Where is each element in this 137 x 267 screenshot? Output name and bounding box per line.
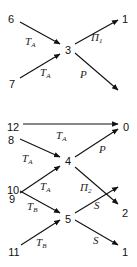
edge-4-to-0 (75, 129, 118, 157)
edge-label: TA (22, 152, 33, 166)
flow-diagram: TATAΠ1PTATAPTAΠ2TBTBSS 61371208492105111 (0, 0, 137, 267)
edge-label: P (98, 143, 106, 155)
edge-label: TB (36, 236, 47, 250)
node-1: 1 (122, 13, 128, 25)
node-6: 6 (8, 13, 14, 25)
node-10: 10 (7, 184, 19, 196)
node-11: 11 (8, 246, 19, 258)
node-0: 0 (123, 121, 129, 133)
node-12: 12 (7, 121, 19, 133)
edge-10-to-5 (20, 191, 60, 213)
node-8: 8 (8, 134, 14, 146)
edge-label: TA (40, 180, 51, 194)
edge-label: S (93, 234, 99, 246)
node-5: 5 (65, 213, 71, 225)
edge-label: P (79, 68, 87, 80)
edge-label: TB (27, 200, 38, 214)
edge-label: TA (40, 66, 51, 80)
edge-label: Π1 (90, 31, 102, 45)
node-4: 4 (65, 155, 71, 167)
node-1: 1 (122, 246, 128, 258)
edge-label: S (94, 199, 100, 211)
edge-label: TA (25, 35, 36, 49)
node-7: 7 (9, 78, 15, 90)
edge-label: Π2 (79, 181, 92, 195)
node-3: 3 (65, 44, 71, 56)
node-2: 2 (122, 207, 128, 219)
edge-label: TA (56, 129, 67, 143)
